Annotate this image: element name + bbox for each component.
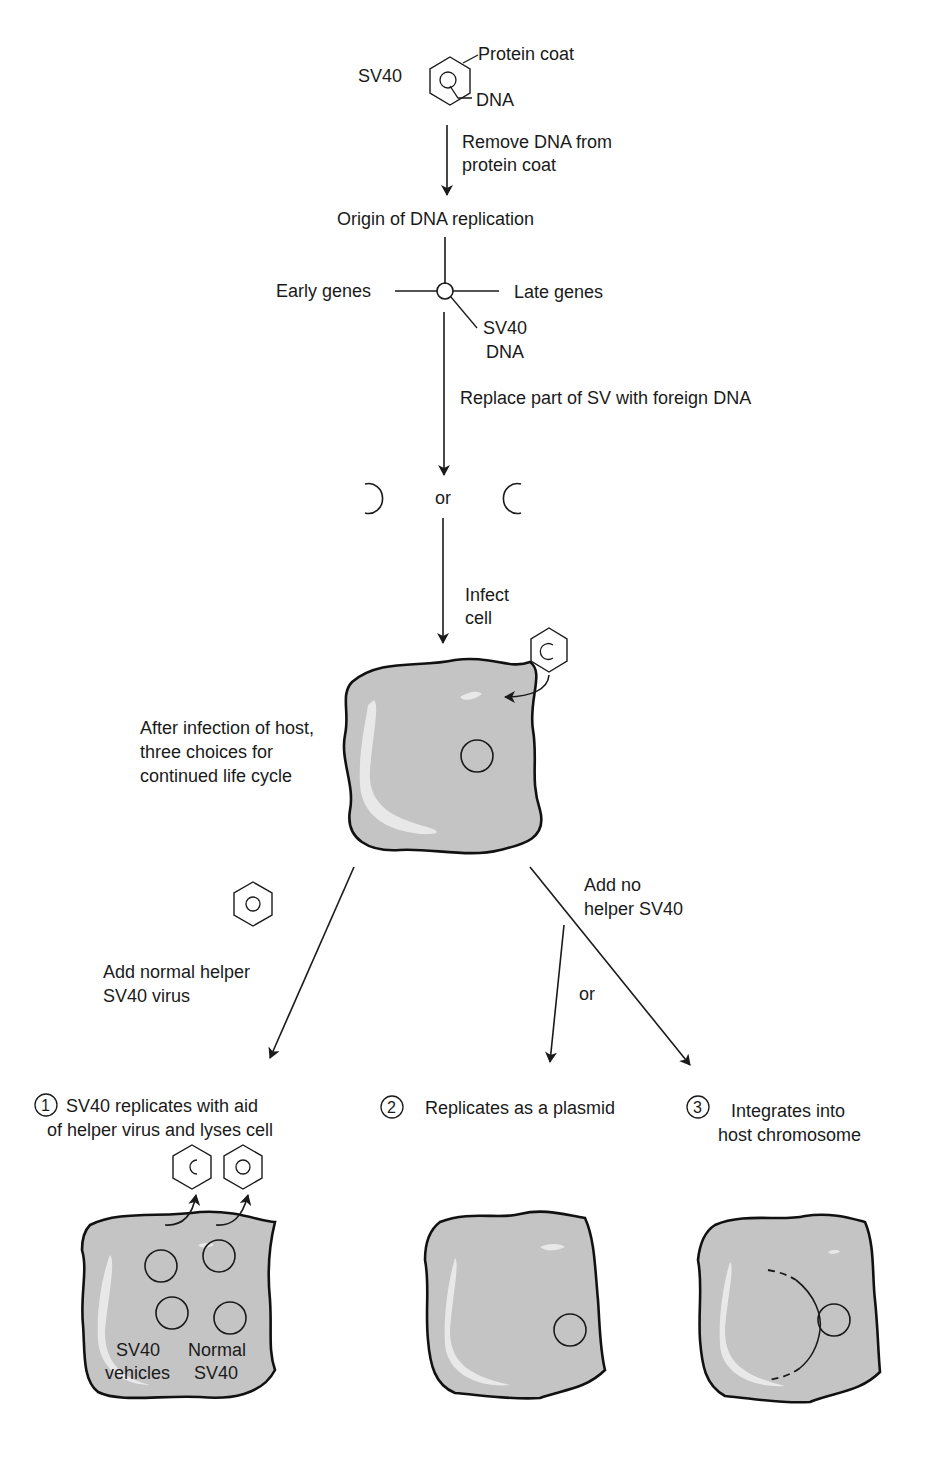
no-helper-label-1: Add no (584, 875, 641, 895)
recombinant-virion-icon (531, 628, 567, 672)
protein-coat-label: Protein coat (478, 44, 574, 64)
remove-dna-label-2: protein coat (462, 155, 556, 175)
outcome-2-number-badge: 2 (381, 1096, 403, 1118)
arrow-no-helper-plasmid (550, 925, 564, 1062)
origin-label: Origin of DNA replication (337, 209, 534, 229)
early-genes-label: Early genes (276, 281, 371, 301)
outcome-1-label-1: SV40 replicates with aid (66, 1096, 258, 1116)
sv40-dna-label-2: DNA (486, 342, 524, 362)
outcome-1-label-2: of helper virus and lyses cell (47, 1120, 273, 1140)
vehicles-label-1: SV40 (116, 1340, 160, 1360)
sv40-vector-diagram: SV40 Protein coat DNA Remove DNA from pr… (0, 0, 942, 1482)
replace-label: Replace part of SV with foreign DNA (460, 388, 751, 408)
remove-dna-label-1: Remove DNA from (462, 132, 612, 152)
normal-sv40-label-2: SV40 (194, 1363, 238, 1383)
plasmid-cell-outcome-2 (425, 1212, 605, 1399)
normal-sv40-label-1: Normal (188, 1340, 246, 1360)
vehicles-label-2: vehicles (105, 1363, 170, 1383)
outcome-3-number-badge: 3 (687, 1096, 709, 1118)
open-circle-right-icon (503, 484, 521, 514)
sv40-label: SV40 (358, 66, 402, 86)
no-helper-label-2: helper SV40 (584, 899, 683, 919)
outcome-1-number-badge: 1 (35, 1094, 57, 1116)
svg-text:3: 3 (693, 1099, 702, 1116)
open-circle-left-icon (365, 484, 383, 514)
helper-label-1: Add normal helper (103, 962, 250, 982)
arrow-helper (270, 867, 354, 1058)
outcome-2-label: Replicates as a plasmid (425, 1098, 615, 1118)
released-vehicle-virion-icon (173, 1145, 211, 1189)
host-caption-1: After infection of host, (140, 718, 314, 738)
dna-label: DNA (476, 90, 514, 110)
host-caption-2: three choices for (140, 742, 273, 762)
infect-label-2: cell (465, 608, 492, 628)
svg-text:1: 1 (41, 1097, 50, 1114)
outcome-3-label-2: host chromosome (718, 1125, 861, 1145)
late-genes-label: Late genes (514, 282, 603, 302)
sv40-dna-map-icon (395, 237, 499, 328)
host-cell (344, 659, 541, 853)
arrow-no-helper-main (530, 867, 690, 1065)
integrated-cell-outcome-3 (698, 1215, 880, 1403)
infect-label-1: Infect (465, 585, 509, 605)
sv40-dna-label-1: SV40 (483, 318, 527, 338)
or-label-top: or (435, 488, 451, 508)
helper-virion-icon (234, 882, 272, 926)
sv40-virion-icon (430, 55, 478, 105)
released-normal-virion-icon (224, 1145, 262, 1189)
svg-text:2: 2 (387, 1099, 396, 1116)
helper-label-2: SV40 virus (103, 986, 190, 1006)
outcome-3-label-1: Integrates into (731, 1101, 845, 1121)
host-caption-3: continued life cycle (140, 766, 292, 786)
or-label-branch: or (579, 984, 595, 1004)
